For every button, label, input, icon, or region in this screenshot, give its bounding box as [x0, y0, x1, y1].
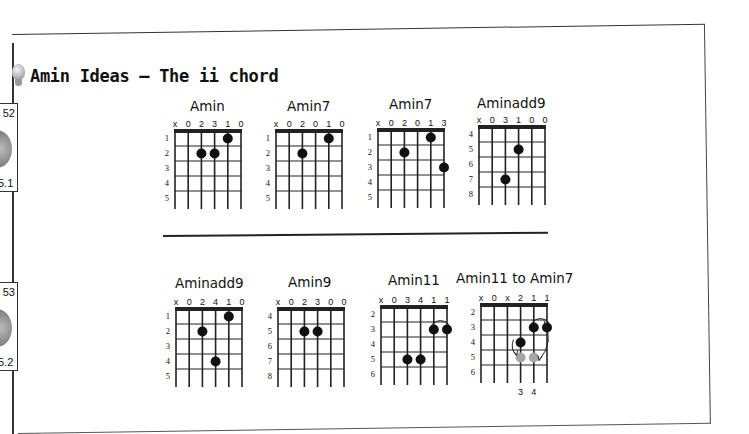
string-fingering: 1 — [531, 293, 536, 303]
chord-name: Amin — [190, 98, 225, 114]
string-fingering: 1 — [225, 119, 230, 129]
finger-dot — [196, 149, 206, 159]
fret-number: 4 — [469, 129, 473, 139]
string-fingering: 3 — [405, 295, 410, 305]
string-fingering: 3 — [503, 115, 508, 125]
fret-number: 4 — [166, 356, 170, 366]
fret-number: 1 — [368, 132, 372, 142]
finger-dot — [324, 134, 334, 144]
fret-number: 3 — [266, 163, 270, 173]
fretboard-grid — [378, 130, 446, 209]
finger-dot — [211, 357, 221, 367]
fret-number: 6 — [371, 369, 375, 379]
string-fingering: 2 — [302, 297, 307, 307]
string-fingering: 4 — [213, 297, 218, 307]
string-fingering: 0 — [392, 295, 397, 305]
fret-number: 5 — [371, 354, 375, 364]
fretboard-grid — [175, 131, 243, 210]
string-fingering: 1 — [428, 118, 433, 128]
string-fingering: 0 — [289, 297, 294, 307]
section-heading: Amin Ideas — The ii chord — [12, 64, 278, 88]
string-fingering: x — [379, 295, 384, 305]
finger-dot — [529, 323, 539, 333]
cd-icon — [0, 130, 12, 168]
fret-number: 6 — [469, 159, 473, 169]
fret-number: 5 — [368, 192, 372, 202]
finger-dot — [210, 149, 220, 159]
string-fingering: x — [173, 119, 178, 129]
string-fingering: 3 — [315, 297, 320, 307]
string-fingering: 1 — [226, 297, 231, 307]
fret-number: 3 — [371, 324, 375, 334]
chord-name: Amin7 — [287, 98, 330, 114]
chord-name: Aminadd9 — [175, 275, 244, 291]
finger-dot — [402, 355, 412, 365]
finger-dot — [426, 133, 436, 143]
fret-number: 7 — [268, 356, 272, 366]
fret-number: 6 — [268, 341, 272, 351]
fretboard-grid — [176, 309, 244, 388]
string-fingering: x — [479, 293, 484, 303]
string-fingering: 0 — [239, 297, 244, 307]
string-fingering: 0 — [389, 118, 394, 128]
fretboard-grid — [479, 127, 547, 206]
string-fingering: 0 — [415, 118, 420, 128]
fret-number: 4 — [368, 177, 372, 187]
string-fingering: x — [376, 118, 381, 128]
audio-tab-2[interactable]: 53 5.2 — [0, 282, 18, 371]
finger-dot — [516, 338, 526, 348]
string-fingering: 1 — [444, 295, 449, 305]
string-fingering: 0 — [542, 115, 547, 125]
finger-dot — [439, 163, 449, 173]
string-fingering: x — [174, 297, 179, 307]
fretboard-grid — [278, 309, 346, 388]
fretboard-grid — [381, 307, 449, 386]
fret-number: 2 — [166, 326, 170, 336]
string-fingering: 2 — [402, 118, 407, 128]
string-fingering: 0 — [187, 297, 192, 307]
lightbulb-icon — [12, 64, 26, 88]
cd-icon — [0, 309, 12, 347]
fret-number: 2 — [368, 147, 372, 157]
fret-number: 5 — [166, 371, 170, 381]
finger-dot — [429, 325, 439, 335]
string-fingering: 1 — [326, 119, 331, 129]
string-fingering: 0 — [492, 293, 497, 303]
fret-number: 5 — [471, 352, 475, 362]
string-fingering: 1 — [544, 293, 549, 303]
string-fingering: 0 — [339, 119, 344, 129]
string-fingering: 0 — [238, 119, 243, 129]
string-fingering: x — [477, 115, 482, 125]
fret-number: 3 — [165, 163, 169, 173]
string-fingering: 3 — [441, 118, 446, 128]
fret-number: 7 — [469, 174, 473, 184]
audio-track-label: 5.1 — [0, 177, 13, 189]
chord-name: Amin7 — [389, 96, 432, 112]
page-frame-left-edge — [12, 43, 14, 434]
fret-number: 8 — [268, 371, 272, 381]
finger-dot — [224, 312, 234, 322]
string-fingering: 0 — [490, 115, 495, 125]
string-fingering: 2 — [518, 293, 523, 303]
fret-number: 3 — [471, 322, 475, 332]
string-fingering: x — [276, 297, 281, 307]
finger-dot — [313, 327, 323, 337]
fret-number: 4 — [371, 339, 375, 349]
fret-number: 2 — [266, 148, 270, 158]
fret-number: 3 — [166, 341, 170, 351]
string-fingering: 4 — [418, 295, 423, 305]
fret-number: 2 — [471, 307, 475, 317]
fret-number: 5 — [268, 326, 272, 336]
audio-tab-1[interactable]: 52 5.1 — [0, 103, 18, 192]
finger-dot — [197, 327, 207, 337]
string-fingering: 2 — [199, 119, 204, 129]
string-fingering: 0 — [287, 119, 292, 129]
fret-number: 4 — [266, 178, 270, 188]
chord-name: Amin9 — [288, 274, 331, 290]
fret-number: 4 — [268, 311, 272, 321]
string-fingering: 0 — [328, 297, 333, 307]
audio-tab-number: 52 — [3, 107, 15, 119]
string-fingering: 0 — [186, 119, 191, 129]
fretboard-grid — [276, 131, 344, 210]
finger-number: 3 — [518, 387, 523, 397]
